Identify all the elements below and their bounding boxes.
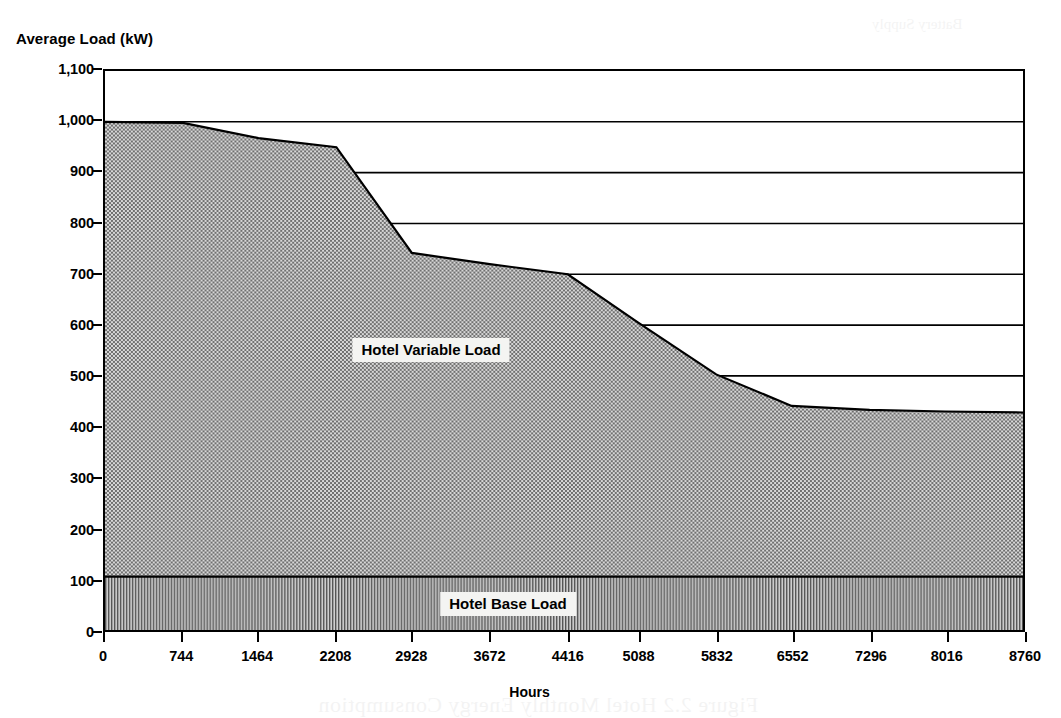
y-tick-mark bbox=[93, 170, 102, 172]
x-tick-mark bbox=[489, 632, 491, 642]
y-tick-label: 200 bbox=[8, 522, 94, 538]
y-tick-label: 800 bbox=[8, 215, 94, 231]
x-tick-label: 6552 bbox=[777, 648, 809, 664]
x-tick-label: 3672 bbox=[474, 648, 506, 664]
y-tick-mark bbox=[93, 119, 102, 121]
y-tick-label: 600 bbox=[8, 317, 94, 333]
x-tick-label: 2208 bbox=[319, 648, 351, 664]
x-tick-mark bbox=[947, 632, 949, 642]
x-tick-label: 2928 bbox=[395, 648, 427, 664]
x-tick-label: 4416 bbox=[552, 648, 584, 664]
y-tick-mark bbox=[93, 631, 102, 633]
y-tick-label: 400 bbox=[8, 419, 94, 435]
y-tick-label: 500 bbox=[8, 368, 94, 384]
y-tick-mark bbox=[93, 580, 102, 582]
chart-plot-area bbox=[103, 69, 1025, 632]
y-tick-label: 1,000 bbox=[8, 112, 94, 128]
x-axis-title-text: Hours bbox=[509, 684, 549, 700]
x-tick-label: 5832 bbox=[701, 648, 733, 664]
x-tick-label: 8760 bbox=[1009, 648, 1041, 664]
x-tick-mark bbox=[639, 632, 641, 642]
y-tick-label: 700 bbox=[8, 266, 94, 282]
y-tick-label: 900 bbox=[8, 163, 94, 179]
y-tick-label: 0 bbox=[8, 624, 94, 640]
x-tick-mark bbox=[717, 632, 719, 642]
x-tick-mark bbox=[871, 632, 873, 642]
y-tick-mark bbox=[93, 222, 102, 224]
y-tick-label: 300 bbox=[8, 470, 94, 486]
y-tick-mark bbox=[93, 375, 102, 377]
y-tick-label: 100 bbox=[8, 573, 94, 589]
y-tick-mark bbox=[93, 529, 102, 531]
x-axis-title: Hours bbox=[0, 684, 1061, 700]
series-label-hotel-base-load: Hotel Base Load bbox=[440, 592, 576, 616]
y-tick-mark bbox=[93, 477, 102, 479]
x-tick-label: 0 bbox=[99, 648, 107, 664]
y-axis-ticks: 01002003004005006007008009001,0001,100 bbox=[0, 69, 94, 632]
x-axis-ticks: 0744146422082928367244165088583265527296… bbox=[103, 632, 1025, 678]
x-tick-label: 744 bbox=[169, 648, 193, 664]
x-tick-label: 8016 bbox=[931, 648, 963, 664]
x-tick-mark bbox=[257, 632, 259, 642]
x-tick-mark bbox=[793, 632, 795, 642]
y-tick-mark bbox=[93, 68, 102, 70]
y-tick-mark bbox=[93, 324, 102, 326]
y-tick-mark bbox=[93, 426, 102, 428]
chart-svg bbox=[105, 71, 1023, 630]
x-tick-mark bbox=[103, 632, 105, 642]
y-tick-mark bbox=[93, 273, 102, 275]
x-tick-label: 7296 bbox=[855, 648, 887, 664]
x-tick-mark bbox=[568, 632, 570, 642]
y-axis-title: Average Load (kW) bbox=[16, 30, 153, 47]
x-tick-mark bbox=[181, 632, 183, 642]
y-tick-label: 1,100 bbox=[8, 61, 94, 77]
x-tick-mark bbox=[411, 632, 413, 642]
x-tick-mark bbox=[335, 632, 337, 642]
page-bleed-top: Battery Supply bbox=[872, 16, 962, 33]
x-tick-mark bbox=[1025, 632, 1027, 642]
series-label-hotel-variable-load: Hotel Variable Load bbox=[352, 338, 509, 362]
x-tick-label: 5088 bbox=[623, 648, 655, 664]
x-tick-label: 1464 bbox=[241, 648, 273, 664]
